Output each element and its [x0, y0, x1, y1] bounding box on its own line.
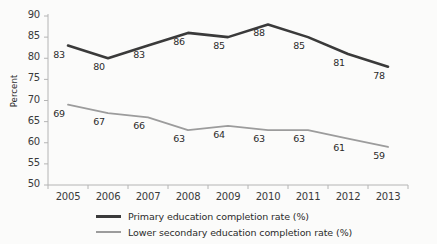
- data-point-label: 64: [207, 129, 231, 140]
- data-point-label: 63: [287, 133, 311, 144]
- chart-legend: Primary education completion rate (%) Lo…: [96, 208, 426, 240]
- legend-line-swatch-primary: [96, 215, 121, 218]
- line-chart: Percent 505560657075808590 2005200620072…: [0, 0, 437, 244]
- data-point-label: 88: [247, 27, 271, 38]
- data-point-label: 67: [87, 116, 111, 127]
- legend-item-secondary: Lower secondary education completion rat…: [96, 224, 426, 240]
- data-point-label: 81: [327, 57, 351, 68]
- data-point-label: 69: [47, 108, 71, 119]
- legend-line-swatch-secondary: [96, 231, 121, 233]
- data-point-label: 80: [87, 61, 111, 72]
- data-point-label: 85: [287, 40, 311, 51]
- data-point-label: 86: [167, 36, 191, 47]
- legend-label-primary: Primary education completion rate (%): [128, 211, 309, 222]
- legend-label-secondary: Lower secondary education completion rat…: [128, 227, 352, 238]
- data-point-label: 78: [367, 70, 391, 81]
- data-point-label: 63: [247, 133, 271, 144]
- data-point-label: 83: [127, 49, 151, 60]
- data-point-label: 85: [207, 40, 231, 51]
- data-point-label: 63: [167, 133, 191, 144]
- legend-item-primary: Primary education completion rate (%): [96, 208, 426, 224]
- data-point-label: 61: [327, 142, 351, 153]
- data-point-label: 66: [127, 120, 151, 131]
- data-point-label: 83: [47, 49, 71, 60]
- data-point-label: 59: [367, 150, 391, 161]
